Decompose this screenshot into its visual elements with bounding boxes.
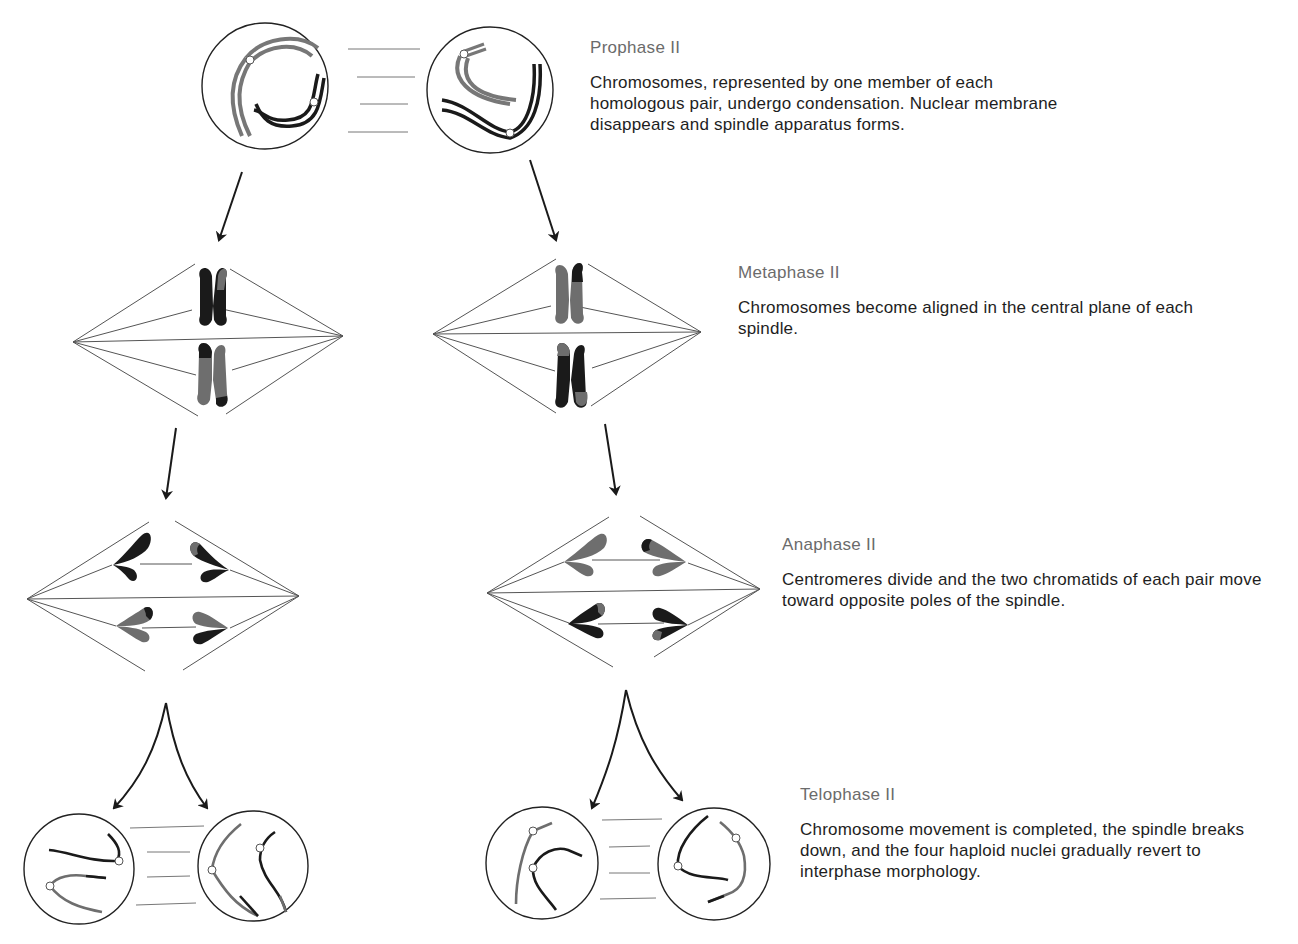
telophase-left-connector-lines — [130, 826, 204, 905]
anaphase-right-spindle — [487, 516, 760, 667]
telophase-right-connector-lines — [600, 819, 662, 899]
prophase-right-arrow — [530, 160, 556, 240]
prophase-ii-description: Chromosomes, represented by one member o… — [590, 72, 1090, 135]
prophase-left-arrow — [219, 172, 242, 240]
anaphase-right-chromatids — [564, 534, 688, 641]
prophase-ii-title: Prophase II — [590, 38, 1110, 58]
telophase-right-cell-1 — [486, 807, 598, 919]
prophase-right-cell — [427, 27, 553, 153]
anaphase-ii-figure — [27, 516, 760, 671]
metaphase-right-arrow — [605, 424, 616, 494]
telophase-left-split-arrows — [114, 703, 207, 808]
metaphase-ii-text: Metaphase II Chromosomes become aligned … — [738, 263, 1238, 339]
telophase-ii-title: Telophase II — [800, 785, 1290, 805]
telophase-left-cell-1 — [24, 814, 134, 924]
metaphase-left-chromosome-top — [199, 268, 227, 326]
metaphase-right-chromosome-bottom — [555, 343, 587, 408]
prophase-ii-text: Prophase II Chromosomes, represented by … — [590, 38, 1110, 135]
anaphase-left-spindle — [27, 521, 299, 671]
anaphase-ii-description: Centromeres divide and the two chromatid… — [782, 569, 1278, 611]
telophase-right-split-arrows — [592, 690, 682, 808]
metaphase-right-chromosome-top — [555, 263, 584, 324]
telophase-ii-figure — [24, 690, 770, 924]
metaphase-ii-description: Chromosomes become aligned in the centra… — [738, 297, 1230, 339]
telophase-left-cell-2 — [198, 811, 308, 921]
anaphase-ii-text: Anaphase II Centromeres divide and the t… — [782, 535, 1282, 611]
anaphase-ii-title: Anaphase II — [782, 535, 1282, 555]
metaphase-left-arrow — [166, 428, 176, 498]
prophase-ii-figure — [202, 23, 556, 240]
telophase-ii-description: Chromosome movement is completed, the sp… — [800, 819, 1280, 882]
metaphase-left-chromosome-bottom — [197, 343, 227, 407]
metaphase-ii-figure — [73, 259, 701, 498]
telophase-ii-text: Telophase II Chromosome movement is comp… — [800, 785, 1290, 882]
prophase-connector-lines — [348, 49, 420, 132]
telophase-right-cell-2 — [658, 808, 770, 920]
prophase-left-cell — [202, 23, 328, 149]
metaphase-ii-title: Metaphase II — [738, 263, 1238, 283]
